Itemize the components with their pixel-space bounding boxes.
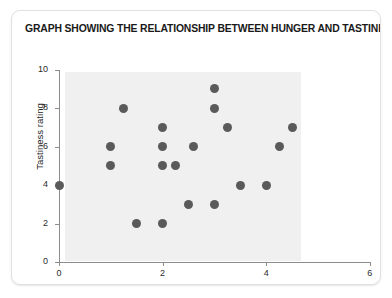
data-point bbox=[275, 142, 284, 151]
data-point bbox=[236, 181, 245, 190]
data-point bbox=[158, 123, 167, 132]
x-tick-label: 6 bbox=[359, 268, 381, 278]
y-tick-label: 0 bbox=[26, 256, 48, 266]
data-point bbox=[262, 181, 271, 190]
data-point bbox=[184, 200, 193, 209]
y-tick-mark bbox=[55, 147, 59, 148]
x-tick-mark bbox=[266, 262, 267, 266]
data-point bbox=[55, 181, 64, 190]
y-axis-title: Tastiness rating bbox=[34, 77, 45, 197]
y-tick-mark bbox=[55, 108, 59, 109]
data-point bbox=[210, 200, 219, 209]
x-tick-mark bbox=[370, 262, 371, 266]
data-point bbox=[119, 104, 128, 113]
data-point bbox=[223, 123, 232, 132]
x-tick-mark bbox=[163, 262, 164, 266]
x-tick-mark bbox=[59, 262, 60, 266]
chart-card: GRAPH SHOWING THE RELATIONSHIP BETWEEN H… bbox=[11, 10, 381, 285]
x-axis-line bbox=[59, 262, 370, 263]
y-tick-mark bbox=[55, 224, 59, 225]
scatter-plot: 0246810 0246 Tastiness rating Number of … bbox=[12, 11, 381, 285]
y-axis-line bbox=[59, 70, 60, 262]
y-tick-label: 10 bbox=[26, 64, 48, 74]
x-axis-title: Number of hours since eating bbox=[59, 282, 370, 285]
data-point bbox=[210, 104, 219, 113]
x-tick-label: 2 bbox=[152, 268, 174, 278]
x-tick-label: 0 bbox=[48, 268, 70, 278]
y-tick-label: 2 bbox=[26, 218, 48, 228]
plot-background-panel bbox=[65, 72, 301, 261]
x-tick-label: 4 bbox=[255, 268, 277, 278]
y-tick-mark bbox=[55, 70, 59, 71]
data-point bbox=[288, 123, 297, 132]
